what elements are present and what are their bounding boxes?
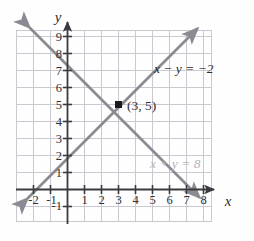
y-tick-label: 8 bbox=[56, 47, 62, 61]
y-tick-label: 3 bbox=[56, 132, 62, 146]
coordinate-plane-svg: -2 -1 1 2 3 4 5 6 7 8 -1 1 2 3 4 5 6 7 8… bbox=[0, 0, 254, 241]
x-tick-label: 1 bbox=[81, 193, 87, 207]
y-tick-label: 1 bbox=[56, 166, 62, 180]
x-tick-label: 8 bbox=[200, 193, 206, 207]
y-tick-label: 9 bbox=[56, 30, 62, 44]
x-axis-label: x bbox=[224, 193, 232, 209]
y-tick-label: 6 bbox=[56, 81, 62, 95]
x-tick-label: 5 bbox=[149, 193, 155, 207]
y-tick-label: 2 bbox=[56, 149, 62, 163]
x-tick-label: 4 bbox=[132, 193, 139, 207]
equation-label-x-minus-y: x − y = −2 bbox=[153, 61, 214, 76]
y-tick-label: 4 bbox=[56, 115, 63, 129]
y-axis-label: y bbox=[53, 9, 62, 25]
x-tick-label: 6 bbox=[166, 193, 172, 207]
y-tick-label: 7 bbox=[56, 64, 62, 78]
intersection-marker bbox=[115, 101, 122, 108]
x-tick-label: -2 bbox=[28, 193, 38, 207]
graph-figure: -2 -1 1 2 3 4 5 6 7 8 -1 1 2 3 4 5 6 7 8… bbox=[0, 0, 254, 241]
intersection-label: (3, 5) bbox=[127, 98, 156, 113]
equation-label-x-plus-y: x + y = 8 bbox=[149, 156, 201, 171]
x-tick-label: 3 bbox=[115, 193, 121, 207]
y-tick-label: 5 bbox=[56, 98, 62, 112]
x-tick-label: 7 bbox=[183, 193, 189, 207]
x-tick-label: 2 bbox=[98, 193, 104, 207]
y-tick-label: -1 bbox=[52, 199, 62, 213]
